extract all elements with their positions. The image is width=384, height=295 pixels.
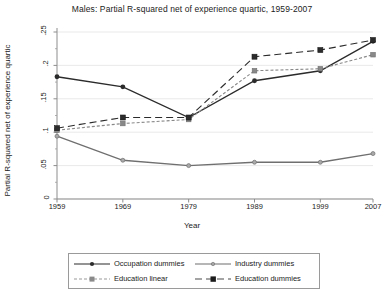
data-point [55,74,60,79]
legend-item-education-linear: Education linear [73,274,194,284]
legend-key-industry-dummies [194,259,232,269]
data-point [55,134,59,138]
x-tick-label: 1959 [40,202,74,211]
x-tick-label: 1989 [238,202,272,211]
y-tick-label: .05 [30,160,48,169]
data-point [371,152,375,156]
y-tick-label: .1 [30,126,48,135]
data-point [187,164,191,168]
x-tick-label: 1969 [106,202,140,211]
data-point [186,115,191,120]
legend-label-education-linear: Education linear [114,274,168,283]
legend-key-education-dummies [194,274,232,284]
x-tick-label: 1979 [172,202,206,211]
y-tick-label: .25 [30,26,48,35]
legend-item-education-dummies: Education dummies [194,274,315,284]
data-point [318,160,322,164]
y-tick-label: 0 [30,193,48,202]
data-point [252,78,257,83]
x-tick-label: 1999 [303,202,337,211]
plot-area [0,0,384,295]
x-tick-label: 2007 [356,202,384,211]
chart-legend: Occupation dummies Industry dummies Educ… [68,253,320,289]
series-line-occupation-dummies [57,41,373,117]
chart-figure: Males: Partial R-squared net of experien… [0,0,384,295]
data-point [120,84,125,89]
y-tick-label: .15 [30,93,48,102]
data-point [121,121,126,126]
legend-key-education-linear [73,274,111,284]
data-point [55,126,60,131]
y-tick-label: .2 [30,59,48,68]
data-point [318,48,323,53]
data-point [253,160,257,164]
data-point [318,66,323,71]
data-point [371,52,376,57]
legend-item-industry-dummies: Industry dummies [194,259,315,269]
legend-label-industry-dummies: Industry dummies [235,259,294,268]
data-point [252,68,257,73]
data-point [120,115,125,120]
legend-label-occupation-dummies: Occupation dummies [114,259,184,268]
legend-item-occupation-dummies: Occupation dummies [73,259,194,269]
legend-label-education-dummies: Education dummies [235,274,301,283]
legend-key-occupation-dummies [73,259,111,269]
data-point [252,54,257,59]
series-line-industry-dummies [57,136,373,165]
data-point [371,38,376,43]
data-point [121,158,125,162]
